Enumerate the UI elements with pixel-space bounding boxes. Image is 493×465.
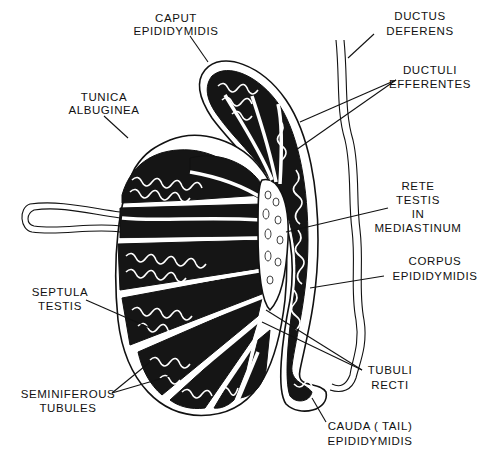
label-tubuli-recti: TUBULI RECTI (368, 364, 413, 391)
svg-text:EFFERENTES: EFFERENTES (389, 78, 471, 90)
svg-text:TUNICA: TUNICA (81, 91, 127, 103)
leader-ductus-deferens (348, 34, 374, 58)
svg-text:CAPUT: CAPUT (155, 12, 197, 24)
label-seminiferous-tubules: SEMINIFEROUS TUBULES (21, 388, 116, 414)
label-tunica-albuginea: TUNICA ALBUGINEA (68, 91, 139, 116)
svg-text:SEPTULA: SEPTULA (32, 286, 89, 298)
svg-text:EPIDIDYMIDIS: EPIDIDYMIDIS (327, 435, 412, 447)
svg-text:EPIDIDYMIDIS: EPIDIDYMIDIS (392, 270, 477, 282)
leader-tubuli-1 (266, 310, 362, 370)
lobule (120, 204, 262, 238)
testis-diagram: CAPUT EPIDIDYMIDIS DUCTUS DEFERENS TUNIC… (0, 0, 493, 465)
svg-text:MEDIASTINUM: MEDIASTINUM (374, 222, 461, 234)
svg-text:RECTI: RECTI (371, 379, 409, 391)
label-caput-epididymidis: CAPUT EPIDIDYMIDIS (133, 12, 218, 37)
ductus-deferens (330, 40, 365, 392)
svg-text:TUBULI: TUBULI (368, 364, 413, 376)
leader-corpus (310, 276, 384, 288)
svg-text:TUBULES: TUBULES (39, 402, 96, 414)
svg-text:CORPUS: CORPUS (409, 255, 462, 267)
label-septula-testis: SEPTULA TESTIS (32, 286, 89, 312)
svg-text:DUCTUS: DUCTUS (394, 10, 446, 22)
label-ductus-deferens: DUCTUS DEFERENS (386, 10, 453, 37)
svg-text:CAUDA ( TAIL): CAUDA ( TAIL) (328, 420, 413, 432)
label-ductuli-efferentes: DUCTULI EFFERENTES (389, 64, 471, 90)
tubule-loop (22, 203, 120, 233)
svg-text:TESTIS: TESTIS (38, 300, 82, 312)
label-rete-testis: RETE TESTIS IN MEDIASTINUM (374, 180, 461, 234)
svg-text:EPIDIDYMIDIS: EPIDIDYMIDIS (133, 25, 218, 37)
svg-text:DEFERENS: DEFERENS (386, 25, 453, 37)
svg-text:IN: IN (412, 208, 425, 220)
svg-text:DUCTULI: DUCTULI (403, 64, 457, 76)
leader-tunica (104, 116, 128, 138)
leader-caput (190, 36, 208, 62)
svg-text:ALBUGINEA: ALBUGINEA (68, 104, 139, 116)
svg-text:RETE: RETE (401, 180, 434, 192)
svg-text:SEMINIFEROUS: SEMINIFEROUS (21, 388, 116, 400)
label-cauda-epididymidis: CAUDA ( TAIL) EPIDIDYMIDIS (327, 420, 412, 447)
svg-text:TESTIS: TESTIS (396, 194, 440, 206)
label-corpus-epididymidis: CORPUS EPIDIDYMIDIS (392, 255, 477, 282)
